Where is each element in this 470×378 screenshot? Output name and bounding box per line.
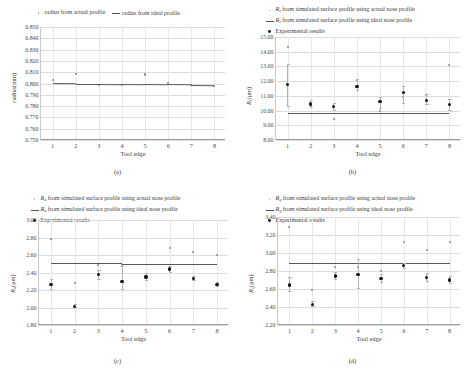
x-axis-tick-label: 4 (120, 142, 123, 149)
gridline-horizontal (276, 140, 460, 141)
plot-area: 15.0014.0013.0012.0011.0010.009.008.0012… (275, 37, 460, 140)
gridline-horizontal (278, 217, 460, 218)
y-axis-tick-label: 0.840 (25, 35, 38, 41)
gridline-vertical (191, 27, 192, 139)
x-axis-tick-label: 8 (213, 142, 216, 149)
legend-text: from simulated surface profile using ide… (46, 206, 177, 212)
gridline-vertical (335, 217, 336, 324)
legend-text: from simulated surface profile using ide… (281, 206, 412, 212)
legend-label: radius from ideal profile (122, 9, 180, 17)
ideal-profile-line (311, 113, 334, 114)
x-axis-tick-label: 1 (286, 142, 289, 149)
x-axis-tick-label: 7 (192, 327, 195, 334)
ideal-profile-line (357, 113, 380, 114)
chart-panel-a: radius from actual profileradius from id… (0, 0, 235, 189)
y-axis-tick-label: 0.770 (25, 114, 38, 120)
ideal-profile-line (51, 263, 75, 264)
y-axis-tick-label: 8.00 (263, 137, 273, 143)
data-point-experimental (97, 273, 100, 276)
y-axis-tick-label: 14.00 (260, 49, 273, 55)
legend-marker-dot-small-icon (265, 195, 274, 203)
y-axis-tick-label: 2.40 (265, 304, 275, 310)
y-axis-tick-label: 12.00 (260, 78, 273, 84)
y-axis-tick-label: 2.20 (265, 322, 275, 328)
x-axis-title: Tool edge (39, 335, 228, 342)
data-point-experimental (309, 102, 312, 105)
gridline-vertical (426, 37, 427, 139)
y-axis-symbol: R (247, 289, 254, 293)
y-axis-tick-label: 2.60 (26, 252, 36, 258)
y-axis-tick-label: 2.80 (26, 235, 36, 241)
y-axis-tick-label: 11.00 (260, 93, 273, 99)
gridline-horizontal (39, 273, 228, 274)
ideal-profile-line (193, 264, 217, 265)
x-axis-tick-label: 2 (309, 142, 312, 149)
legend-item: Ra from simulated surface profile using … (30, 194, 232, 204)
legend-text: from simulated surface profile using act… (281, 195, 415, 201)
legend-label: Rq from simulated surface profile using … (276, 194, 416, 204)
legend-label: radius from actual profile (45, 8, 106, 16)
legend-label: Rq from simulated surface profile using … (276, 205, 413, 215)
ideal-profile-line (146, 264, 170, 265)
legend-text: from simulated surface profile using ide… (281, 17, 412, 23)
gridline-horizontal (41, 38, 225, 39)
gridline-vertical (51, 220, 52, 324)
data-point-experimental (402, 91, 405, 94)
ideal-profile-line (335, 263, 358, 264)
y-axis-units: (μm) (245, 87, 252, 99)
gridline-horizontal (278, 271, 460, 272)
x-axis-tick-label: 6 (168, 327, 171, 334)
y-axis-tick-label: 0.810 (25, 69, 38, 75)
y-axis-symbol: R (245, 101, 252, 105)
gridline-vertical (214, 27, 215, 139)
data-point-experimental (378, 100, 381, 103)
x-axis-tick-label: 1 (49, 327, 52, 334)
data-point-experimental (356, 273, 359, 276)
ideal-profile-line (358, 263, 381, 264)
gridline-horizontal (41, 50, 225, 51)
y-axis-tick-label: 2.40 (26, 270, 36, 276)
x-axis-tick-label: 4 (355, 142, 358, 149)
ideal-profile-line (426, 113, 449, 114)
legend-label: Ra from simulated surface profile using … (41, 194, 181, 204)
x-axis-tick-label: 5 (379, 142, 382, 149)
y-axis-tick-label: 0.830 (25, 47, 38, 53)
chart-panel-b: Rz from simulated surface profile using … (235, 0, 470, 189)
x-axis-tick-label: 8 (216, 327, 219, 334)
data-point-simulated (144, 73, 146, 75)
gridline-horizontal (41, 27, 225, 28)
x-axis-tick-label: 7 (425, 142, 428, 149)
data-point-simulated (403, 241, 405, 243)
gridline-horizontal (39, 255, 228, 256)
y-axis-tick-label: 15.00 (260, 34, 273, 40)
legend-marker-line-icon (265, 17, 274, 25)
gridline-vertical (75, 220, 76, 324)
data-point-experimental (311, 303, 314, 306)
y-axis-tick-label: 2.80 (265, 268, 275, 274)
y-axis-tick-label: 2.20 (26, 287, 36, 293)
legend-label: Rz from simulated surface profile using … (276, 5, 415, 15)
legend-item: Rq from simulated surface profile using … (265, 205, 467, 215)
y-axis-tick-label: 0.790 (25, 92, 38, 98)
gridline-vertical (311, 37, 312, 139)
data-point-experimental (448, 278, 451, 281)
ideal-profile-line (288, 113, 311, 114)
data-point-experimental (334, 274, 337, 277)
ideal-profile-line (99, 84, 122, 85)
ideal-profile-line (168, 84, 191, 85)
chart-legend: radius from actual profileradius from id… (34, 8, 232, 17)
legend-item: Ra from simulated surface profile using … (30, 205, 232, 215)
ideal-profile-line (289, 263, 312, 264)
y-axis-title: Ra(μm) (9, 274, 17, 293)
plot-area: 3.002.802.602.402.202.001.8012345678Tool… (38, 220, 228, 325)
y-axis-units: (μm) (247, 274, 254, 286)
legend-text: from simulated surface profile using act… (46, 195, 180, 201)
y-axis-tick-label: 10.00 (260, 108, 273, 114)
legend-item: radius from ideal profile (111, 9, 180, 17)
y-axis-tick-label: 2.00 (26, 305, 36, 311)
panel-caption: (d) (235, 357, 470, 364)
chart-legend: Rz from simulated surface profile using … (265, 5, 467, 35)
gridline-horizontal (41, 72, 225, 73)
gridline-horizontal (278, 289, 460, 290)
x-axis-tick-label: 8 (448, 327, 451, 334)
